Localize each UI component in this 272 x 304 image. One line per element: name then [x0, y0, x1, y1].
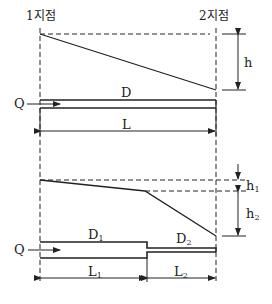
D1-label: D1 — [88, 228, 104, 243]
L1-label: L1 — [88, 265, 102, 280]
Q-label-upper: Q — [14, 97, 25, 110]
D-label: D — [121, 86, 131, 99]
D2-label: D2 — [176, 232, 192, 247]
h2-label: h2 — [246, 207, 259, 222]
lower-energy-line — [40, 180, 216, 236]
Q-label-lower: Q — [14, 243, 25, 256]
point-1-label: 1지점 — [26, 10, 56, 22]
L2-label: L2 — [174, 265, 188, 280]
pipe-D1-D2-bottom — [40, 252, 216, 258]
diagram-canvas — [0, 0, 272, 304]
h1-label: h1 — [246, 179, 259, 194]
upper-energy-line — [40, 34, 216, 90]
h-label: h — [244, 56, 252, 69]
point-2-label: 2지점 — [199, 10, 229, 22]
L-label: L — [122, 118, 131, 131]
